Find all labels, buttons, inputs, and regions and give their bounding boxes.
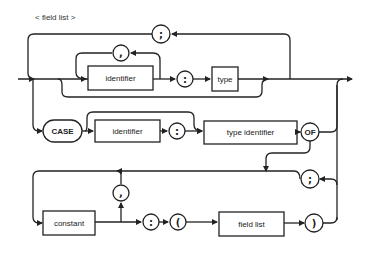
semicolon-label-variant: ; (308, 174, 312, 185)
line-comma-constant-up (117, 171, 121, 184)
line-to-semicolon-variant (320, 179, 337, 185)
semicolon-label-top: ; (159, 29, 163, 40)
line-rparen-to-right (323, 217, 337, 223)
of-label: OF (304, 128, 315, 137)
colon-label-1: : (183, 74, 187, 85)
identifier-label-1: identifier (105, 74, 136, 83)
type-label: type (217, 75, 233, 84)
case-label: CASE (51, 127, 74, 136)
constant-label: constant (54, 219, 85, 228)
type-identifier-label: type identifier (227, 128, 275, 137)
field-list-label: field list (238, 220, 265, 229)
line-to-case (33, 79, 42, 131)
colon-label-3: : (149, 217, 153, 228)
lparen-label: ( (176, 217, 181, 228)
rparen-label: ) (312, 218, 317, 229)
line-of-to-exit (319, 79, 343, 132)
identifier-label-2: identifier (112, 127, 143, 136)
colon-label-2: : (175, 126, 179, 137)
comma-label-constant: , (119, 187, 123, 198)
syntax-diagram: < field list > identifier : type ; , CAS… (0, 0, 373, 257)
comma-label-top: , (119, 47, 123, 58)
line-of-to-variants (266, 141, 310, 171)
diagram-title: < field list > (35, 13, 76, 22)
